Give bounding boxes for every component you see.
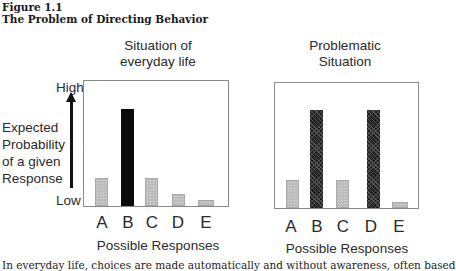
bar-left-b (121, 109, 134, 206)
bar-right-d (367, 110, 380, 208)
y-axis-low-label: Low (56, 193, 81, 209)
y-axis-label-line-3: of a given (2, 153, 65, 170)
chart-left-frame (83, 80, 229, 207)
figure-label: Figure 1.1 (2, 1, 63, 13)
y-axis-label-line-2: Probability (2, 136, 65, 153)
bar-right-a (286, 180, 299, 208)
x-axis-label-right: Possible Responses (277, 241, 417, 257)
chart-left-title: Situation of everyday life (103, 38, 213, 70)
chart-right-frame (274, 82, 419, 209)
bar-left-a (95, 178, 108, 206)
x-tick-left-e: E (196, 214, 216, 232)
x-axis-label-left: Possible Responses (88, 238, 228, 254)
bar-right-b (310, 110, 323, 208)
bar-left-c (145, 178, 158, 206)
chart-right-title-line-1: Problematic (290, 38, 400, 54)
figure-title: The Problem of Directing Behavior (2, 13, 208, 25)
y-axis-label-line-4: Response (2, 170, 65, 187)
bar-right-c (336, 180, 349, 208)
x-tick-left-b: B (118, 214, 138, 232)
chart-left-title-line-1: Situation of (103, 38, 213, 54)
y-axis-arrow-shaft (70, 100, 73, 188)
bar-left-d (172, 194, 185, 206)
x-tick-left-d: D (168, 214, 188, 232)
x-tick-right-b: B (307, 218, 327, 236)
figure-caption: In everyday life, choices are made autom… (2, 259, 456, 271)
y-axis-label: Expected Probability of a given Response (2, 119, 65, 187)
x-tick-right-c: C (333, 218, 353, 236)
bar-left-e (198, 200, 214, 206)
x-tick-right-e: E (389, 218, 409, 236)
chart-right-title-line-2: Situation (290, 54, 400, 70)
chart-left-title-line-2: everyday life (103, 54, 213, 70)
chart-right-title: Problematic Situation (290, 38, 400, 70)
y-axis-label-line-1: Expected (2, 119, 65, 136)
x-tick-right-a: A (281, 218, 301, 236)
x-tick-left-a: A (92, 214, 112, 232)
x-tick-right-d: D (361, 218, 381, 236)
x-tick-left-c: C (142, 214, 162, 232)
bar-right-e (392, 202, 408, 208)
